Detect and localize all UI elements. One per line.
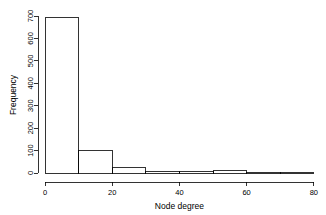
x-tick-label-80: 80 bbox=[310, 188, 318, 197]
histogram-plot: 0 100 200 300 400 500 600 700 Frequency … bbox=[0, 0, 326, 215]
y-tick-label-700: 700 bbox=[26, 10, 35, 23]
y-tick-label-0: 0 bbox=[26, 171, 35, 175]
histogram-figure: 0 100 200 300 400 500 600 700 Frequency … bbox=[0, 0, 326, 215]
plot-background bbox=[0, 0, 326, 215]
x-tick-label-20: 20 bbox=[108, 188, 116, 197]
y-tick-label-300: 300 bbox=[26, 99, 35, 112]
x-tick-label-60: 60 bbox=[242, 188, 250, 197]
y-axis-title: Frequency bbox=[8, 74, 18, 115]
y-tick-label-100: 100 bbox=[26, 144, 35, 157]
x-axis-title: Node degree bbox=[155, 201, 204, 211]
y-tick-label-600: 600 bbox=[26, 32, 35, 45]
x-tick-label-40: 40 bbox=[175, 188, 183, 197]
y-tick-label-200: 200 bbox=[26, 122, 35, 135]
x-tick-label-0: 0 bbox=[43, 188, 47, 197]
y-tick-label-500: 500 bbox=[26, 55, 35, 68]
y-tick-label-400: 400 bbox=[26, 77, 35, 90]
